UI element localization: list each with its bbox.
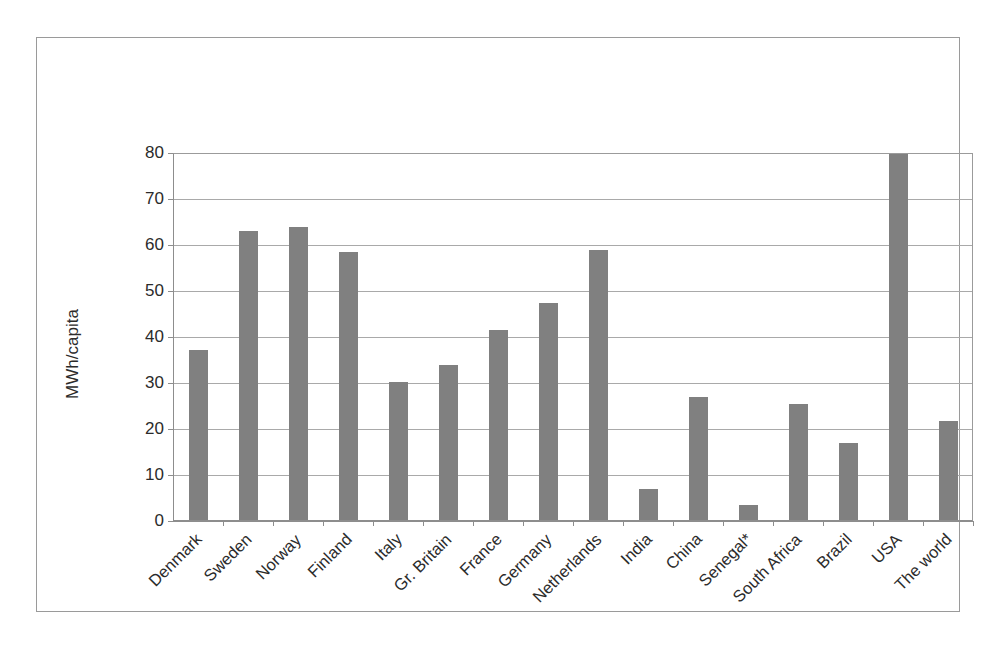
y-axis-tick-mark <box>168 383 173 384</box>
x-axis-tick-label: Sweden <box>200 530 256 586</box>
plot-area: 01020304050607080 <box>173 153 973 521</box>
y-axis-tick-label: 10 <box>145 465 164 485</box>
y-axis-tick-mark <box>168 337 173 338</box>
bar <box>589 250 608 521</box>
gridline <box>173 199 973 200</box>
x-axis-tick-label: Italy <box>371 530 406 565</box>
y-axis-tick-mark <box>168 475 173 476</box>
x-axis-tick-label: Finland <box>304 530 356 582</box>
x-axis-tick-mark <box>923 521 924 526</box>
x-axis-tick-mark <box>223 521 224 526</box>
bar <box>389 382 408 521</box>
bar <box>789 404 808 521</box>
bar <box>489 330 508 521</box>
y-axis-tick-mark <box>168 521 173 522</box>
y-axis-tick-label: 70 <box>145 189 164 209</box>
bar <box>339 252 358 521</box>
bar <box>839 443 858 521</box>
x-axis-tick-label: Norway <box>252 530 305 583</box>
x-axis-tick-mark <box>723 521 724 526</box>
x-axis-tick-mark <box>873 521 874 526</box>
y-axis-tick-label: 20 <box>145 419 164 439</box>
x-axis-tick-mark <box>673 521 674 526</box>
x-axis-tick-mark <box>573 521 574 526</box>
y-axis-tick-mark <box>168 153 173 154</box>
y-axis-tick-label: 50 <box>145 281 164 301</box>
bar <box>439 365 458 521</box>
bar <box>189 350 208 521</box>
y-axis-title: MWh/capita <box>63 54 83 254</box>
bar <box>239 231 258 521</box>
x-axis-tick-label: India <box>617 530 656 569</box>
bar <box>539 303 558 522</box>
y-axis-tick-mark <box>168 199 173 200</box>
x-axis-tick-mark <box>823 521 824 526</box>
x-axis-tick-mark <box>973 521 974 526</box>
y-axis-tick-label: 80 <box>145 143 164 163</box>
y-axis-title-text: MWh/capita <box>63 254 83 454</box>
bar <box>689 397 708 521</box>
y-axis-tick-mark <box>168 429 173 430</box>
x-axis-tick-mark <box>523 521 524 526</box>
bar <box>939 421 958 521</box>
x-axis-tick-mark <box>373 521 374 526</box>
x-axis-tick-mark <box>623 521 624 526</box>
gridline <box>173 153 973 154</box>
y-axis-tick-label: 60 <box>145 235 164 255</box>
y-axis-tick-label: 30 <box>145 373 164 393</box>
bar <box>639 489 658 521</box>
x-axis-tick-mark <box>423 521 424 526</box>
chart-figure: MWh/capita 01020304050607080 DenmarkSwed… <box>36 37 960 612</box>
y-axis-tick-label: 0 <box>155 511 164 531</box>
bar <box>739 505 758 521</box>
bar <box>289 227 308 521</box>
x-axis-tick-mark <box>473 521 474 526</box>
x-axis-tick-label: USA <box>868 530 905 567</box>
x-axis-tick-mark <box>273 521 274 526</box>
bar <box>889 153 908 521</box>
x-axis-tick-label: Denmark <box>145 530 206 591</box>
x-axis-tick-label: China <box>662 530 706 574</box>
y-axis-tick-label: 40 <box>145 327 164 347</box>
y-axis-tick-mark <box>168 291 173 292</box>
x-axis-labels: DenmarkSwedenNorwayFinlandItalyGr. Brita… <box>173 530 973 645</box>
x-axis-tick-mark <box>323 521 324 526</box>
x-axis-tick-mark <box>773 521 774 526</box>
y-axis-tick-mark <box>168 245 173 246</box>
x-axis-tick-label: Brazil <box>813 530 856 573</box>
